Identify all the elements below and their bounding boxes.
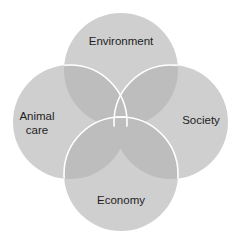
economy-label: Economy <box>97 194 145 206</box>
environment-label: Environment <box>89 35 154 47</box>
society-label: Society <box>182 114 220 126</box>
animal-care-label-line1: Animal <box>19 110 54 122</box>
animal-care-label-line2: care <box>26 124 48 136</box>
venn-diagram: Environment Animal care Society Economy <box>0 0 238 242</box>
